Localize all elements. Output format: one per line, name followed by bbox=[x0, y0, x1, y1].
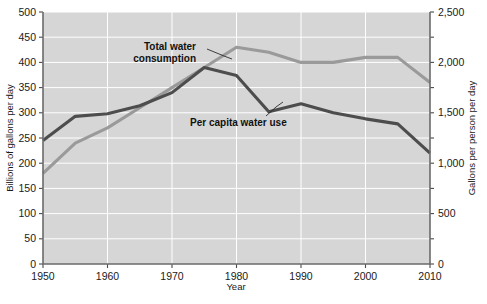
y-tick-label-left: 50 bbox=[24, 232, 36, 244]
y-tick-label-right: 500 bbox=[438, 207, 456, 219]
y-tick-label-left: 400 bbox=[18, 56, 36, 68]
line-chart: 050100150200250300350400450500 05001,000… bbox=[0, 0, 487, 304]
y-tick-label-right: 1,500 bbox=[438, 106, 464, 118]
annotation-per-capita-water-use: Per capita water use bbox=[190, 117, 287, 128]
y-axis-title-right: Gallons per person per day bbox=[466, 80, 477, 195]
y-tick-label-left: 100 bbox=[18, 207, 36, 219]
y-tick-label-right: 2,500 bbox=[438, 6, 464, 18]
x-tick-label: 1950 bbox=[31, 270, 55, 282]
x-tick-label: 1990 bbox=[289, 270, 313, 282]
x-tick-label: 1960 bbox=[96, 270, 120, 282]
y-tick-label-left: 250 bbox=[18, 132, 36, 144]
x-tick-label: 2000 bbox=[354, 270, 378, 282]
y-tick-label-right: 2,000 bbox=[438, 56, 464, 68]
y-tick-label-left: 500 bbox=[18, 6, 36, 18]
y-tick-label-right: 0 bbox=[438, 258, 444, 270]
annotation-total-water-consumption-line2: consumption bbox=[133, 53, 196, 64]
x-tick-label: 1970 bbox=[160, 270, 184, 282]
x-axis-title: Year bbox=[226, 281, 245, 292]
chart-container: 050100150200250300350400450500 05001,000… bbox=[0, 0, 487, 304]
y-tick-label-left: 150 bbox=[18, 182, 36, 194]
y-tick-label-left: 350 bbox=[18, 81, 36, 93]
x-tick-label: 2010 bbox=[418, 270, 442, 282]
annotation-total-water-consumption-line1: Total water bbox=[144, 41, 196, 52]
y-tick-label-right: 1,000 bbox=[438, 157, 464, 169]
y-tick-label-left: 300 bbox=[18, 106, 36, 118]
y-tick-label-left: 0 bbox=[30, 258, 36, 270]
y-tick-label-left: 450 bbox=[18, 31, 36, 43]
y-tick-label-left: 200 bbox=[18, 157, 36, 169]
y-axis-title-left: Billions of gallons per day bbox=[4, 84, 15, 192]
